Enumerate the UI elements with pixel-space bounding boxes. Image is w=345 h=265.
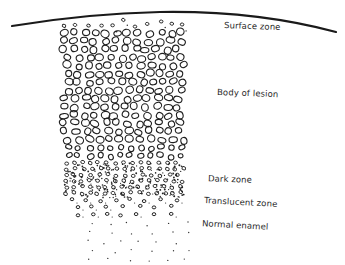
body-of-lesion-pattern xyxy=(58,27,188,161)
dark-zone-pattern xyxy=(63,160,186,198)
enamel-surface-line xyxy=(12,12,336,32)
surface-zone-label: Surface zone xyxy=(224,20,281,32)
normal-enamel-pattern xyxy=(87,221,189,261)
body-of-lesion-label: Body of lesion xyxy=(217,87,279,99)
enamel-lesion-diagram xyxy=(0,0,345,265)
translucent-zone-pattern xyxy=(70,197,182,217)
dark-zone-label: Dark zone xyxy=(208,173,252,185)
